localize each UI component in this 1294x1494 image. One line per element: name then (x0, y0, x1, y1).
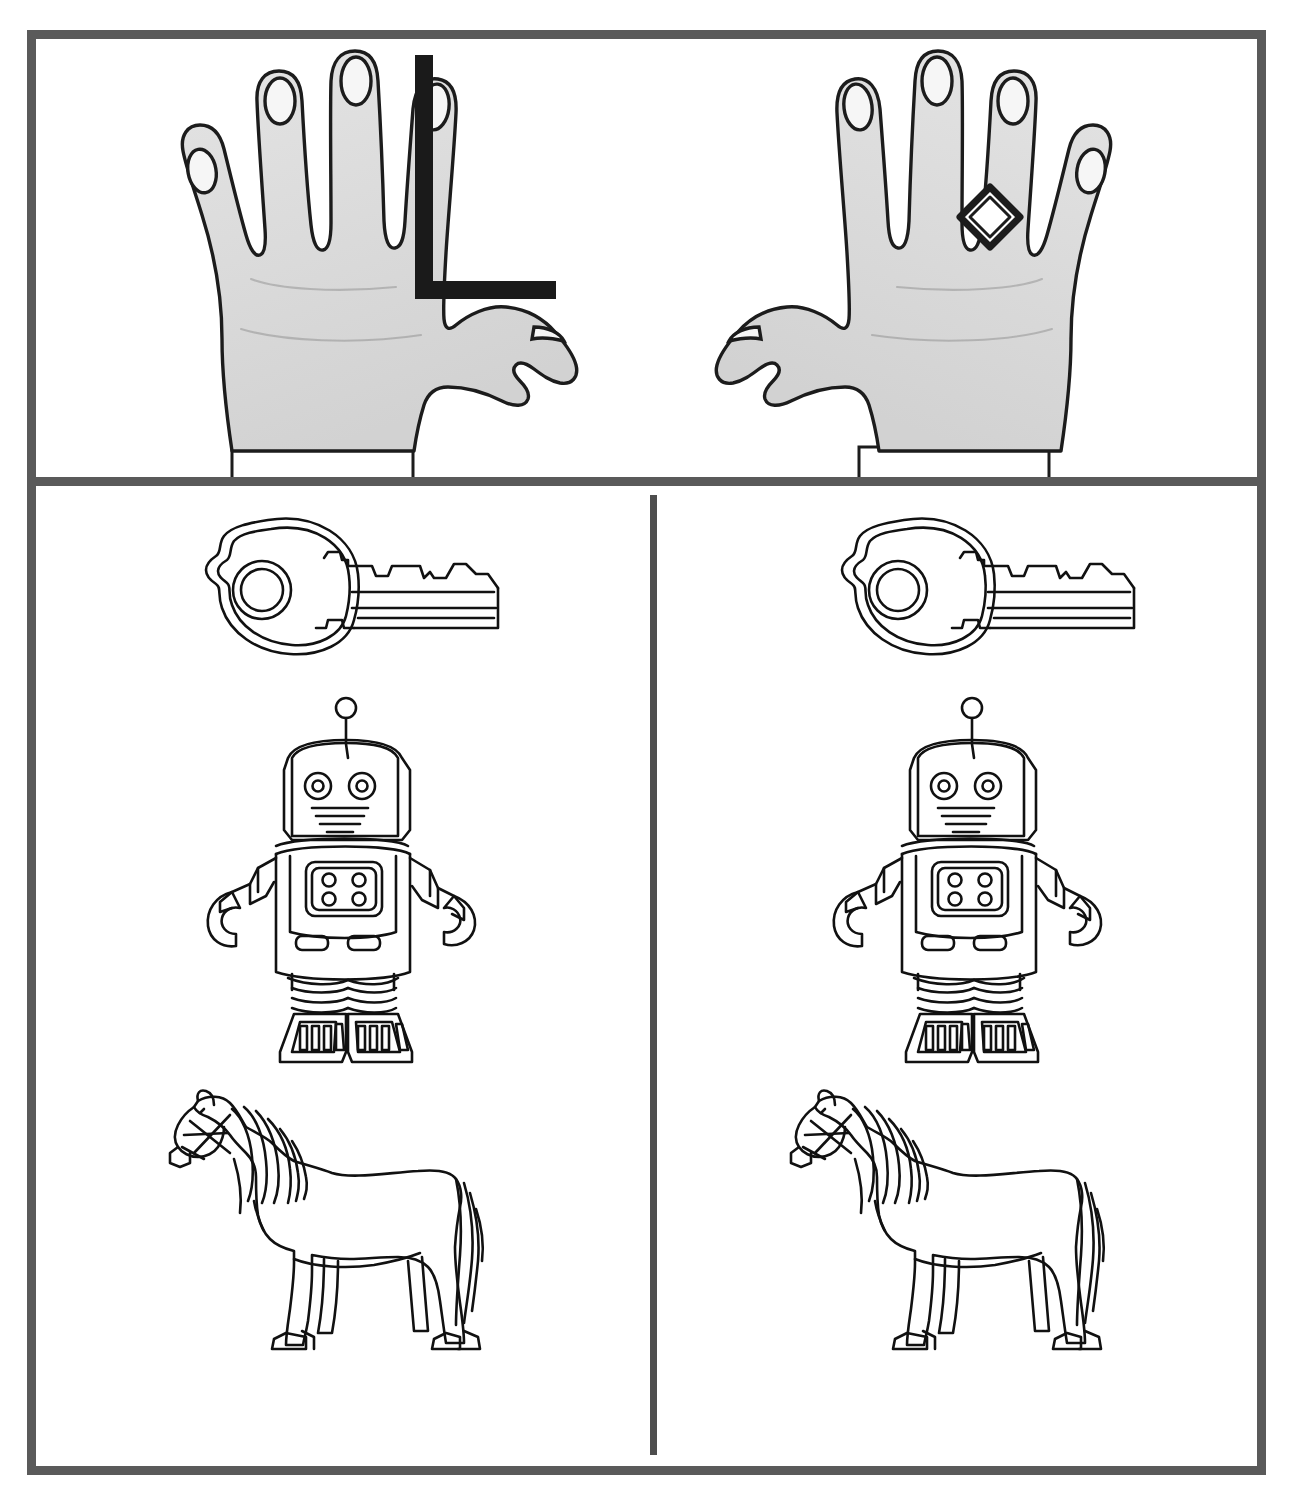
right-hand-panel[interactable] (657, 39, 1257, 477)
left-thumb-nail (532, 327, 564, 341)
left-hand-figure (36, 39, 641, 477)
key-icon[interactable] (812, 508, 1172, 658)
horse-icon[interactable] (767, 1081, 1127, 1371)
figure-sheet (0, 0, 1294, 1494)
left-middle-nail (341, 57, 371, 105)
right-hand-outline (716, 51, 1110, 451)
right-object-column[interactable] (657, 486, 1257, 1466)
left-hand-panel[interactable] (36, 39, 641, 477)
right-index-nail (998, 78, 1028, 124)
bracket-vertical-bar (415, 55, 433, 299)
horizontal-divider (27, 477, 1266, 486)
robot-icon[interactable] (196, 696, 496, 1066)
right-thumb-nail (729, 327, 761, 341)
key-icon[interactable] (176, 508, 536, 658)
left-object-column[interactable] (36, 486, 650, 1466)
vertical-divider (650, 495, 657, 1455)
left-ring-nail (265, 78, 295, 124)
bracket-horizontal-bar (415, 281, 556, 299)
right-hand-figure (657, 39, 1257, 477)
horse-icon[interactable] (146, 1081, 506, 1371)
left-hand-outline (182, 51, 576, 451)
robot-icon[interactable] (822, 696, 1122, 1066)
right-middle-nail (922, 57, 952, 105)
